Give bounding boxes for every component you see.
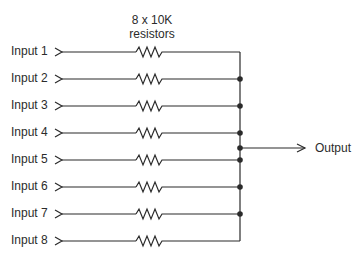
input-row-1 (55, 47, 240, 57)
resistor-icon (136, 236, 172, 246)
output-bus (237, 52, 305, 241)
input-label-2: Input 2 (11, 71, 48, 85)
input-label-7: Input 7 (11, 206, 48, 220)
resistor-icon (136, 182, 172, 192)
input-row-4 (55, 128, 243, 138)
input-chevron-icon (55, 129, 62, 137)
input-chevron-icon (55, 237, 62, 245)
input-label-1: Input 1 (11, 44, 48, 58)
input-label-4: Input 4 (11, 125, 48, 139)
input-chevron-icon (55, 75, 62, 83)
input-label-8: Input 8 (11, 233, 48, 247)
resistor-icon (136, 155, 172, 165)
input-row-2 (55, 74, 243, 84)
input-label-5: Input 5 (11, 152, 48, 166)
input-chevron-icon (55, 210, 62, 218)
input-chevron-icon (55, 156, 62, 164)
output-label: Output (315, 141, 351, 155)
resistor-icon (136, 101, 172, 111)
input-row-7 (55, 209, 243, 219)
resistor-icon (136, 209, 172, 219)
input-row-5 (55, 155, 243, 165)
input-chevron-icon (55, 183, 62, 191)
input-chevron-icon (55, 102, 62, 110)
input-row-8 (55, 236, 240, 246)
input-label-6: Input 6 (11, 179, 48, 193)
resistor-network-schematic (0, 0, 361, 261)
resistor-icon (136, 74, 172, 84)
resistor-icon (136, 47, 172, 57)
resistor-icon (136, 128, 172, 138)
input-label-3: Input 3 (11, 98, 48, 112)
input-chevron-icon (55, 48, 62, 56)
input-row-3 (55, 101, 243, 111)
input-rows (55, 47, 243, 246)
input-row-6 (55, 182, 243, 192)
